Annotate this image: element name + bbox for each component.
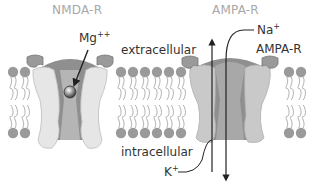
k-label: K+ xyxy=(164,164,179,179)
k-text: K xyxy=(164,165,172,179)
mg-text: Mg xyxy=(79,31,97,45)
na-text: Na xyxy=(257,23,273,37)
extracellular-label: extracellular xyxy=(121,43,196,57)
intracellular-label: intracellular xyxy=(121,145,193,159)
na-label: Na+ xyxy=(257,22,280,37)
ampa-title: AMPA-R xyxy=(212,3,259,17)
mg-charge: ++ xyxy=(97,30,110,39)
na-charge: + xyxy=(273,22,280,31)
mg-ion-icon xyxy=(64,86,76,98)
k-charge: + xyxy=(172,164,179,173)
mg-label: Mg++ xyxy=(79,30,110,45)
ampa-receptor-label: AMPA-R xyxy=(256,42,302,56)
nmda-receptor xyxy=(27,50,113,148)
receptor-diagram: NMDA-R AMPA-R Mg++ extracellular intrace… xyxy=(0,0,311,185)
nmda-title: NMDA-R xyxy=(52,3,102,17)
